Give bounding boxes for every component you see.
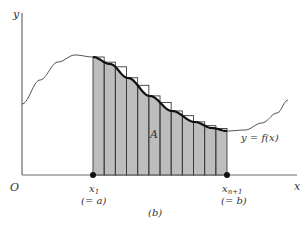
area-label: A <box>149 128 158 141</box>
figure-caption: (b) <box>148 207 162 218</box>
riemann-sum-diagram: y x O A y = f(x) x1 (= a) xn+1 (= b) (b) <box>0 0 306 230</box>
y-axis-label: y <box>12 8 20 21</box>
origin-label: O <box>10 181 19 194</box>
point-b-marker <box>224 172 230 178</box>
b-note: (= b) <box>221 195 247 206</box>
curve-label: y = f(x) <box>240 132 279 143</box>
x-axis-label: x <box>294 180 301 193</box>
a-note: (= a) <box>81 195 106 206</box>
riemann-rectangles <box>93 57 227 175</box>
point-a-marker <box>90 172 96 178</box>
